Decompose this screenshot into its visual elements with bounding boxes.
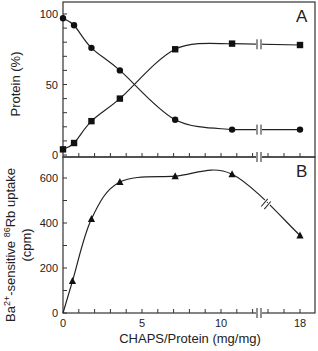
data-point-square xyxy=(172,46,178,52)
panel-b-curve-break xyxy=(261,199,270,209)
panel-a-curve-circles xyxy=(63,18,232,129)
data-point-triangle xyxy=(88,215,95,222)
data-point-circle xyxy=(71,22,77,28)
data-point-circle xyxy=(297,126,303,132)
y-title-sup-86: 86 xyxy=(2,227,12,237)
x-tick-label: 10 xyxy=(215,317,227,329)
data-point-square xyxy=(117,95,123,101)
panel-a-curve-squares xyxy=(63,43,232,149)
panel-b-y-tick-label: 200 xyxy=(40,262,58,274)
panel-b: B 0200400600 051018 Ba2+-sensitive 86Rb … xyxy=(2,152,315,346)
data-point-circle xyxy=(60,15,66,21)
panel-b-y-tick-label: 400 xyxy=(40,217,58,229)
y-title-ba: Ba xyxy=(3,305,18,322)
panel-b-y-axis-title: Ba2+-sensitive 86Rb uptake xyxy=(2,168,18,322)
data-point-square xyxy=(229,40,235,46)
data-point-triangle xyxy=(69,277,76,284)
data-point-square xyxy=(297,42,303,48)
panel-a-y-tick-label: 0 xyxy=(52,149,58,161)
y-title-end: Rb uptake xyxy=(3,168,18,227)
panel-a-y-tick-label: 100 xyxy=(40,8,58,20)
panel-b-frame xyxy=(63,157,315,313)
chart-figure: A 050100 Protein (%) B 0200400600 051018… xyxy=(0,0,318,351)
data-point-circle xyxy=(88,45,94,51)
x-axis-title: CHAPS/Protein (mg/mg) xyxy=(119,331,261,346)
x-tick-label: 18 xyxy=(294,317,306,329)
panel-b-y-tick-label: 600 xyxy=(40,172,58,184)
data-point-circle xyxy=(229,126,235,132)
panel-b-y-axis-title-units: (cpm) xyxy=(19,228,34,261)
data-point-square xyxy=(88,118,94,124)
data-point-square xyxy=(71,140,77,146)
panel-b-label: B xyxy=(296,162,307,181)
x-tick-label: 0 xyxy=(60,317,66,329)
data-point-circle xyxy=(117,67,123,73)
panel-b-y-tick-label: 0 xyxy=(52,307,58,319)
panel-a-label: A xyxy=(296,7,308,26)
panel-a: A 050100 Protein (%) xyxy=(8,2,315,162)
x-tick-label: 5 xyxy=(139,317,145,329)
panel-a-y-tick-label: 50 xyxy=(46,79,58,91)
panel-a-frame xyxy=(63,2,315,157)
panel-a-curve-squares-tail xyxy=(232,44,300,45)
data-point-square xyxy=(60,146,66,152)
y-title-sup-2plus: 2+ xyxy=(2,296,12,306)
panel-b-curve-triangles xyxy=(63,170,300,313)
y-title-mid: -sensitive xyxy=(3,237,18,296)
data-point-circle xyxy=(172,117,178,123)
panel-a-y-axis-title: Protein (%) xyxy=(8,51,23,116)
